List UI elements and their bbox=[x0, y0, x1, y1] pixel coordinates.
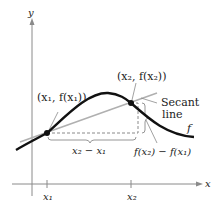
x-axis-arrow-icon bbox=[196, 182, 203, 187]
curve-label: f bbox=[186, 122, 193, 135]
y-axis-label: y bbox=[27, 7, 34, 18]
dx-label: x₂ − x₁ bbox=[72, 145, 106, 156]
secant-line-diagram: y x (x₁, f(x₁)) (x₂, f(x₂)) Secant line … bbox=[0, 0, 216, 210]
dx-brace bbox=[48, 137, 136, 143]
point1-label: (x₁, f(x₁)) bbox=[37, 91, 86, 104]
secant-label-line2: line bbox=[162, 108, 183, 121]
tick-x1-label: x₁ bbox=[43, 191, 53, 202]
leader-secant bbox=[141, 98, 157, 103]
point-2 bbox=[128, 100, 134, 106]
point-1 bbox=[44, 130, 50, 136]
dy-label: f(x₂) − f(x₁) bbox=[133, 146, 191, 157]
dashed-run-rise bbox=[47, 103, 138, 133]
y-axis-arrow-icon bbox=[30, 18, 35, 25]
leader-point2 bbox=[132, 83, 136, 100]
x-axis-label: x bbox=[205, 178, 211, 189]
point2-label: (x₂, f(x₂)) bbox=[117, 70, 166, 83]
tick-x2-label: x₂ bbox=[127, 191, 137, 202]
